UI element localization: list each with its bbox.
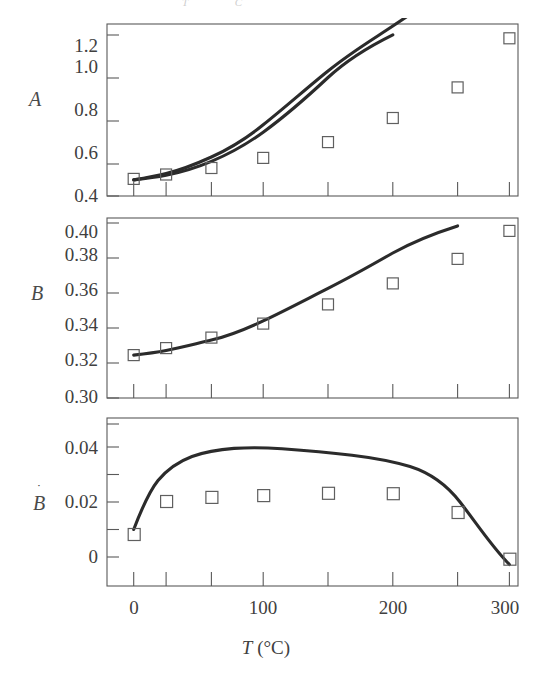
panel-a-fit-curve (134, 18, 458, 180)
data-point-marker (452, 507, 464, 519)
panel-b-y-ticks (107, 223, 119, 398)
data-point-marker (206, 491, 218, 503)
panel-a-ytick-label: 1.0 (6, 56, 98, 78)
data-point-marker (452, 253, 463, 264)
x-tick-label-300: 300 (491, 597, 520, 619)
x-tick-label-0: 0 (129, 597, 139, 619)
x-tick-label-200: 200 (379, 597, 408, 619)
panel-a-markers (128, 33, 515, 185)
panel-b-fit-curve (134, 226, 458, 355)
data-point-marker (387, 278, 398, 289)
panel-bdot-plot (100, 412, 525, 596)
panel-bdot-ytick-label: 0 (0, 546, 98, 568)
panel-bdot-ytick-label: 0.04 (0, 437, 98, 459)
data-point-marker (258, 152, 269, 163)
data-point-marker (128, 529, 140, 541)
data-point-marker (206, 163, 217, 174)
data-point-marker (452, 82, 463, 93)
panel-a-plot (100, 18, 525, 206)
panel-bdot-x-ticks (134, 572, 510, 586)
data-point-marker (161, 169, 172, 180)
panel-b-ytick-label: 0.40 (0, 221, 98, 243)
figure-root: T C A 0.4 0.6 0.8 1.0 1.2 (0, 0, 533, 674)
data-point-marker (258, 490, 270, 502)
data-point-marker (387, 488, 399, 500)
x-axis-title: T (°C) (242, 637, 290, 659)
panel-b-frame (107, 218, 518, 398)
clipped-caption-ghost: T C (182, 0, 322, 6)
data-point-marker (323, 487, 335, 499)
panel-b-plot (100, 212, 525, 408)
data-point-marker (323, 137, 334, 148)
panel-a-x-ticks (134, 182, 510, 196)
panel-bdot-ytick-label: 0.02 (0, 491, 98, 513)
panel-b-ytick-label: 0.36 (0, 279, 98, 301)
data-point-marker (387, 113, 398, 124)
data-point-marker (504, 225, 515, 236)
panel-b-ytick-label: 0.34 (0, 314, 98, 336)
panel-a-y-ticks (107, 35, 119, 196)
x-tick-label-100: 100 (249, 597, 278, 619)
data-point-marker (161, 343, 172, 354)
panel-a-ytick-label: 0.6 (6, 142, 98, 164)
panel-b-ytick-label: 0.30 (0, 386, 98, 408)
panel-b-x-ticks (134, 384, 510, 398)
data-point-marker (323, 299, 334, 310)
x-axis-title-units: (°C) (257, 637, 290, 658)
data-point-marker (258, 318, 269, 329)
data-point-marker (206, 332, 217, 343)
data-point-marker (504, 33, 515, 44)
panel-bdot-y-ticks (107, 424, 119, 557)
panel-a-ytick-label: 1.2 (6, 35, 98, 57)
panel-b-ytick-label: 0.38 (0, 244, 98, 266)
panel-a-ytick-label: 0.8 (6, 99, 98, 121)
panel-a-ytick-label: 0.4 (6, 185, 98, 207)
panel-b-ytick-label: 0.32 (0, 349, 98, 371)
x-axis-title-symbol: T (242, 637, 253, 658)
data-point-marker (161, 496, 173, 508)
data-point-marker (128, 173, 139, 184)
data-point-marker (128, 350, 139, 361)
data-point-marker (504, 553, 516, 565)
